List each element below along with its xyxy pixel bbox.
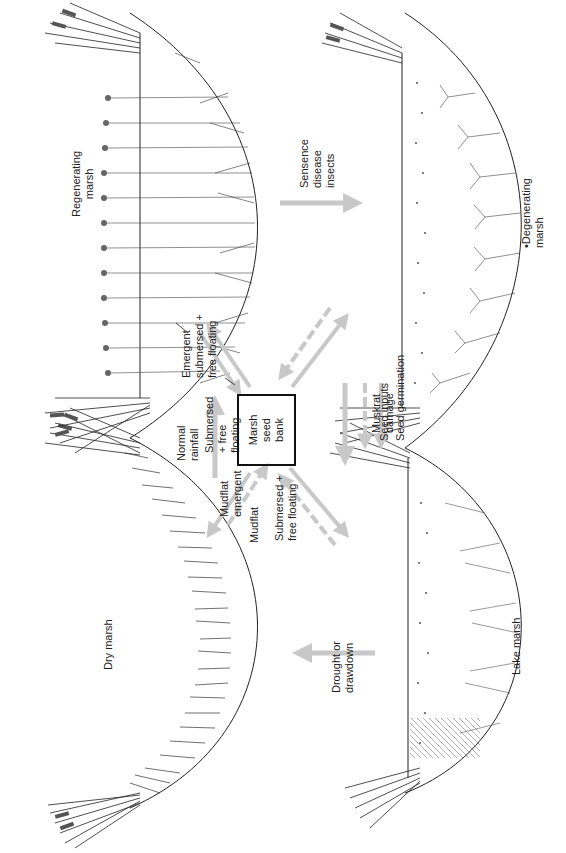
transition-label-drought: Drought or drawdown	[330, 641, 356, 693]
legend-seed-inputs: Seed inputs	[378, 383, 391, 441]
seed-flow-label-mudflat: Mudflat	[248, 507, 261, 543]
legend-seed-germination: Seed germination	[394, 355, 407, 441]
transition-label-sensence: Sensence disease insects	[298, 139, 337, 188]
stage-label-regenerating-marsh: Regenerating marsh	[70, 151, 96, 217]
seed-flow-label-mudflat-emergent: Mudflat emergent	[218, 471, 244, 517]
degenerating-marsh-basin	[322, 13, 521, 448]
seed-flow-label-emergent-submersed: Emergent submersed + free floating	[180, 314, 219, 378]
stage-label-degenerating-marsh: •Degenerating marsh	[520, 178, 546, 248]
stage-label-lake-marsh: Lake marsh	[510, 618, 523, 675]
marsh-seed-bank-label: Marsh seed bank	[247, 415, 286, 446]
regenerating-marsh-basin	[45, 3, 258, 453]
stage-label-dry-marsh: Dry marsh	[102, 619, 115, 670]
transition-label-normal-rainfall: Normal rainfall	[175, 426, 201, 461]
marsh-seed-bank-box: Marsh seed bank	[237, 394, 296, 466]
lake-marsh-basin	[330, 423, 521, 828]
marsh-cycle-diagram: Dry marsh Regenerating marsh •Degenerati…	[0, 0, 566, 853]
seed-flow-label-submersed-free-floating-lake: Submersed + free floating	[273, 475, 299, 541]
